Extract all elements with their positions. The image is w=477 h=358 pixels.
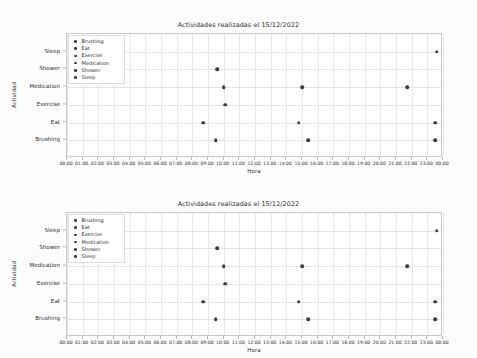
y-tick-label: Eat xyxy=(51,119,60,125)
legend-item[interactable]: Eat xyxy=(71,45,121,52)
y-tick-label: Brushing xyxy=(35,315,60,321)
legend-item-label: Eat xyxy=(82,45,90,52)
legend-item[interactable]: Brushing xyxy=(71,38,121,45)
legend-item-label: Brushing xyxy=(82,38,104,45)
x-tick-mark xyxy=(113,336,114,339)
x-tick-label: 16:00 xyxy=(310,340,323,345)
x-tick-mark xyxy=(191,336,192,339)
y-tick-label: Brushing xyxy=(35,136,60,142)
x-tick-label: 17:00 xyxy=(326,340,339,345)
x-tick-mark xyxy=(364,157,365,160)
legend-item-label: Shower xyxy=(82,67,101,74)
x-tick-label: 08:00 xyxy=(185,161,198,166)
x-tick-mark xyxy=(160,336,161,339)
chart-title: Actividades realizadas el 15/12/2022 xyxy=(0,200,477,208)
legend-marker-icon xyxy=(74,76,77,79)
x-tick-mark xyxy=(395,157,396,160)
x-tick-label: 13:00 xyxy=(263,161,276,166)
x-tick-mark xyxy=(66,336,67,339)
data-point-marker xyxy=(223,282,227,286)
y-tick-mark xyxy=(63,229,66,230)
data-point-marker xyxy=(214,138,218,142)
x-tick-mark xyxy=(332,336,333,339)
scatter-charts-page: Actividades realizadas el 15/12/2022Acti… xyxy=(0,0,477,358)
legend-item[interactable]: Sleep xyxy=(71,74,121,81)
x-tick-mark xyxy=(442,157,443,160)
legend-item[interactable]: Shower xyxy=(71,246,121,253)
data-point-marker xyxy=(433,138,437,142)
x-tick-mark xyxy=(238,157,239,160)
x-tick-mark xyxy=(144,157,145,160)
x-tick-label: 07:00 xyxy=(169,161,182,166)
y-tick-mark xyxy=(63,121,66,122)
x-tick-mark xyxy=(97,157,98,160)
y-axis-tick-labels: BrushingEatExerciseMedicationShowerSleep xyxy=(0,33,63,157)
x-tick-mark xyxy=(97,336,98,339)
x-tick-label: 21:00 xyxy=(388,161,401,166)
y-tick-mark xyxy=(63,247,66,248)
x-tick-label: 14:00 xyxy=(279,340,292,345)
x-tick-mark xyxy=(411,157,412,160)
x-tick-label: 02:00 xyxy=(91,340,104,345)
grid-line-horizontal xyxy=(67,284,441,285)
legend-item[interactable]: Sleep xyxy=(71,253,121,260)
data-point-marker xyxy=(222,85,226,89)
legend-marker-icon xyxy=(74,55,77,58)
x-tick-mark xyxy=(285,336,286,339)
x-tick-label: 17:00 xyxy=(326,161,339,166)
legend-item-label: Sleep xyxy=(82,74,96,81)
x-tick-mark xyxy=(238,336,239,339)
x-tick-label: 00:00 xyxy=(59,161,72,166)
x-tick-label: 21:00 xyxy=(388,340,401,345)
x-tick-label: 12:00 xyxy=(247,161,260,166)
y-tick-mark xyxy=(63,50,66,51)
legend-item[interactable]: Shower xyxy=(71,67,121,74)
chart-title: Actividades realizadas el 15/12/2022 xyxy=(0,21,477,29)
x-tick-label: 16:00 xyxy=(310,161,323,166)
x-tick-mark xyxy=(223,336,224,339)
x-tick-mark xyxy=(223,157,224,160)
x-tick-label: 12:00 xyxy=(247,340,260,345)
legend-item[interactable]: Exercise xyxy=(71,231,121,238)
x-tick-label: 20:00 xyxy=(373,161,386,166)
y-tick-label: Sleep xyxy=(44,48,60,54)
data-point-marker xyxy=(433,300,437,304)
grid-line-horizontal xyxy=(67,105,441,106)
y-tick-label: Shower xyxy=(39,65,60,71)
x-tick-label: 00:00 xyxy=(59,340,72,345)
x-tick-label: 03:00 xyxy=(106,340,119,345)
x-tick-mark xyxy=(379,157,380,160)
legend-item[interactable]: Brushing xyxy=(71,217,121,224)
y-tick-mark xyxy=(63,139,66,140)
y-tick-label: Exercise xyxy=(37,280,60,286)
x-tick-mark xyxy=(348,157,349,160)
x-tick-mark xyxy=(411,336,412,339)
x-tick-mark xyxy=(254,336,255,339)
x-tick-label: 10:00 xyxy=(216,161,229,166)
x-tick-label: 11:00 xyxy=(232,161,245,166)
legend-item[interactable]: Medication xyxy=(71,60,121,67)
data-point-marker xyxy=(306,317,310,321)
x-tick-mark xyxy=(144,336,145,339)
y-tick-mark xyxy=(63,300,66,301)
x-tick-mark xyxy=(113,157,114,160)
x-tick-mark xyxy=(129,157,130,160)
legend-item[interactable]: Exercise xyxy=(71,52,121,59)
grid-line-horizontal xyxy=(67,266,441,267)
data-point-marker xyxy=(433,317,437,321)
legend-item[interactable]: Medication xyxy=(71,239,121,246)
x-tick-mark xyxy=(270,336,271,339)
legend-item-label: Shower xyxy=(82,246,101,253)
legend-item[interactable]: Eat xyxy=(71,224,121,231)
x-tick-mark xyxy=(207,157,208,160)
data-point-marker xyxy=(216,247,220,251)
y-tick-label: Exercise xyxy=(37,101,60,107)
legend-item-label: Exercise xyxy=(82,231,103,238)
x-tick-mark xyxy=(426,336,427,339)
data-point-marker xyxy=(214,317,218,321)
x-tick-label: 09:00 xyxy=(200,161,213,166)
x-tick-mark xyxy=(254,157,255,160)
x-tick-mark xyxy=(379,336,380,339)
x-tick-label: 06:00 xyxy=(153,340,166,345)
chart-figure-2: Actividades realizadas el 15/12/2022Acti… xyxy=(0,179,477,358)
